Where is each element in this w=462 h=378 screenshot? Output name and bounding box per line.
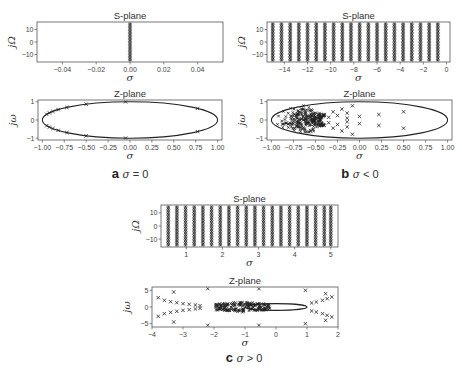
panel-b-s-plane: S-plane−14−12−10−8−6−4−20100−10σjΩ: [236, 10, 450, 83]
z-plane-xtick: −0.75: [55, 144, 73, 151]
panel-b-z-plane: Z-plane−1.00−0.75−0.50−0.250.000.250.500…: [236, 88, 455, 161]
panel-c: S-plane12345100−10σjΩZ-plane−4−3−2−10125…: [121, 193, 340, 365]
z-plane-ytick: −5: [141, 320, 149, 327]
s-plane-ytick: 10: [26, 26, 34, 33]
s-plane-xtick: 1: [184, 251, 188, 258]
s-plane-ylabel: jΩ: [6, 36, 17, 49]
z-plane-ytick: 1: [260, 98, 264, 105]
z-plane-xtick: −3: [179, 331, 187, 338]
z-plane-xtick: 0.25: [375, 144, 389, 151]
s-plane-xtick: −2: [419, 66, 427, 73]
z-plane-xtick: 2: [336, 331, 340, 338]
z-plane-xtick: 0.50: [397, 144, 411, 151]
s-plane-title: S-plane: [233, 193, 266, 204]
s-plane-xtick: −0.02: [87, 66, 105, 73]
s-plane-xlabel: σ: [246, 257, 254, 268]
panel-c-z-plane: Z-plane−4−3−2−101250−5σjω: [121, 275, 340, 348]
z-plane-ytick: 5: [145, 287, 149, 294]
s-plane-xtick: 3: [257, 251, 261, 258]
panel-c-caption: c σ > 0: [226, 350, 263, 365]
z-plane-xtick: −4: [148, 331, 156, 338]
z-plane-title: Z-plane: [343, 88, 375, 99]
panel-b: S-plane−14−12−10−8−6−4−20100−10σjΩZ-plan…: [236, 10, 455, 181]
s-plane-ytick: 0: [154, 223, 158, 230]
z-plane-ytick: 0: [31, 117, 35, 124]
z-plane-xtick: 0.75: [419, 144, 433, 151]
z-plane-xlabel: σ: [242, 337, 250, 348]
s-plane-xtick: 0.02: [157, 66, 171, 73]
s-plane-ytick: −10: [252, 51, 264, 58]
z-plane-xtick: −0.25: [329, 144, 347, 151]
panel-a: S-plane−0.04−0.020.000.020.04100−10σjΩZ-…: [6, 10, 225, 181]
z-plane-xtick: −0.50: [77, 144, 95, 151]
z-plane-ylabel: jω: [121, 301, 132, 314]
s-plane-ytick: 10: [150, 209, 158, 216]
s-plane-xtick: −14: [278, 66, 290, 73]
s-plane-xlabel: σ: [127, 72, 135, 83]
s-plane-xtick: 2: [220, 251, 224, 258]
s-plane-xtick: −12: [302, 66, 314, 73]
s-plane-ytick: −10: [22, 51, 34, 58]
z-plane-ylabel: jω: [236, 114, 247, 127]
z-plane-xtick: −2: [210, 331, 218, 338]
s-plane-xlabel: σ: [355, 72, 363, 83]
figure-canvas: S-plane−0.04−0.020.000.020.04100−10σjΩZ-…: [0, 0, 462, 378]
z-plane-ytick: 1: [31, 98, 35, 105]
z-plane-title: Z-plane: [229, 275, 261, 286]
z-plane-ytick: −1: [27, 135, 35, 142]
z-plane-xtick: 0.75: [189, 144, 203, 151]
z-plane-ylabel: jω: [7, 114, 18, 127]
s-plane-ytick: 10: [256, 26, 264, 33]
z-plane-xtick: 1: [305, 331, 309, 338]
s-plane-ytick: 0: [30, 39, 34, 46]
panel-c-s-plane: S-plane12345100−10σjΩ: [130, 193, 338, 268]
s-plane-ytick: 0: [260, 39, 264, 46]
z-plane-ytick: 0: [260, 117, 264, 124]
panel-b-caption: b σ < 0: [341, 166, 378, 181]
z-plane-xlabel: σ: [356, 150, 364, 161]
s-plane-ylabel: jΩ: [236, 36, 247, 49]
panel-a-caption: a σ = 0: [112, 166, 149, 181]
z-plane-xtick: −0.75: [285, 144, 303, 151]
z-plane-xtick: −1.00: [263, 144, 281, 151]
s-plane-xtick: −6: [373, 66, 381, 73]
z-plane-xlabel: σ: [127, 150, 135, 161]
z-plane-title: Z-plane: [114, 88, 146, 99]
panel-a-s-plane: S-plane−0.04−0.020.000.020.04100−10σjΩ: [6, 10, 223, 83]
z-plane-xtick: 0.50: [167, 144, 181, 151]
s-plane-frame: [161, 205, 338, 247]
s-plane-xtick: −10: [325, 66, 337, 73]
s-plane-ytick: −10: [146, 236, 158, 243]
z-plane-xtick: −0.25: [99, 144, 117, 151]
s-plane-ylabel: jΩ: [130, 220, 141, 233]
s-plane-xtick: 0.04: [191, 66, 205, 73]
s-plane-title: S-plane: [114, 10, 147, 21]
s-plane-xtick: 4: [293, 251, 297, 258]
s-plane-title: S-plane: [342, 10, 375, 21]
z-plane-xtick: 0: [274, 331, 278, 338]
z-plane-ytick: 0: [145, 304, 149, 311]
z-plane-xtick: 1.00: [211, 144, 225, 151]
z-plane-xtick: −1.00: [34, 144, 52, 151]
s-plane-xtick: 5: [329, 251, 333, 258]
z-plane-ytick: −1: [256, 135, 264, 142]
s-plane-xtick: 0: [445, 66, 449, 73]
panel-a-z-plane: Z-plane−1.00−0.75−0.50−0.250.000.250.500…: [7, 88, 225, 161]
z-plane-xtick: −0.50: [307, 144, 325, 151]
s-plane-xtick: −0.04: [54, 66, 72, 73]
z-plane-xtick: 0.25: [145, 144, 159, 151]
s-plane-xtick: −4: [396, 66, 404, 73]
z-plane-xtick: 1.00: [441, 144, 455, 151]
